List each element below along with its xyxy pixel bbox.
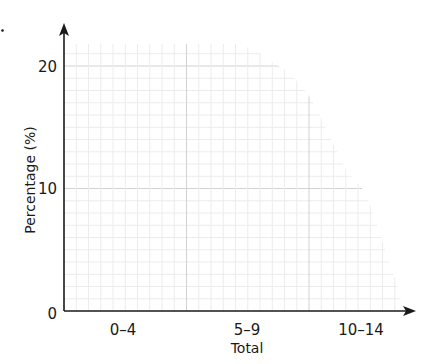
y-tick-20: 20 [38,58,57,76]
stray-dot [1,29,4,32]
x-axis-title: Total [230,340,264,356]
y-axis-title: Percentage (%) [22,126,38,233]
grid [64,42,402,311]
x-tick-0-4: 0–4 [110,321,137,339]
y-tick-10: 10 [38,180,57,198]
y-tick-0: 0 [47,305,57,323]
x-tick-10-14: 10–14 [338,321,384,339]
x-tick-5-9: 5–9 [234,321,261,339]
chart-canvas: 0 10 20 0–4 5–9 10–14 Total Percentage (… [0,0,431,364]
